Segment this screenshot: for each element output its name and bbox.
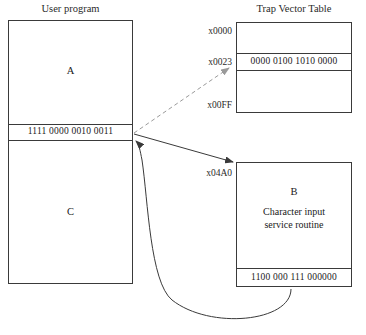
service-routine-section-b-label: B (236, 186, 352, 197)
trap-vector-addr-entry: x0023 (188, 57, 232, 67)
trap-vector-table-title: Trap Vector Table (236, 3, 352, 14)
service-routine-description-line1: Character input (236, 205, 352, 218)
trap-vector-table-divider-top (236, 53, 352, 54)
user-program-box (8, 20, 133, 284)
service-routine-addr-start: x04A0 (188, 168, 232, 178)
trap-vector-entry-value: 0000 0100 1010 0000 (236, 56, 352, 66)
trap-vector-table-divider-bottom (236, 70, 352, 71)
service-routine-divider (236, 268, 352, 269)
user-program-title: User program (8, 3, 133, 14)
arrow-to-service-routine (134, 134, 233, 162)
user-program-divider-top (8, 124, 133, 125)
trap-routine-diagram: User program Trap Vector Table A 1111 00… (0, 0, 366, 335)
trap-vector-addr-bottom: x00FF (188, 100, 232, 110)
user-program-section-c-label: C (8, 206, 133, 217)
service-routine-return-instruction: 1100 000 111 000000 (236, 272, 352, 282)
trap-vector-table-box (236, 22, 352, 113)
user-program-divider-bottom (8, 140, 133, 141)
trap-vector-addr-top: x0000 (188, 26, 232, 36)
trap-instruction-text: 1111 0000 0010 0011 (8, 126, 133, 136)
user-program-section-a-label: A (8, 65, 133, 76)
service-routine-description-line2: service routine (236, 218, 352, 231)
